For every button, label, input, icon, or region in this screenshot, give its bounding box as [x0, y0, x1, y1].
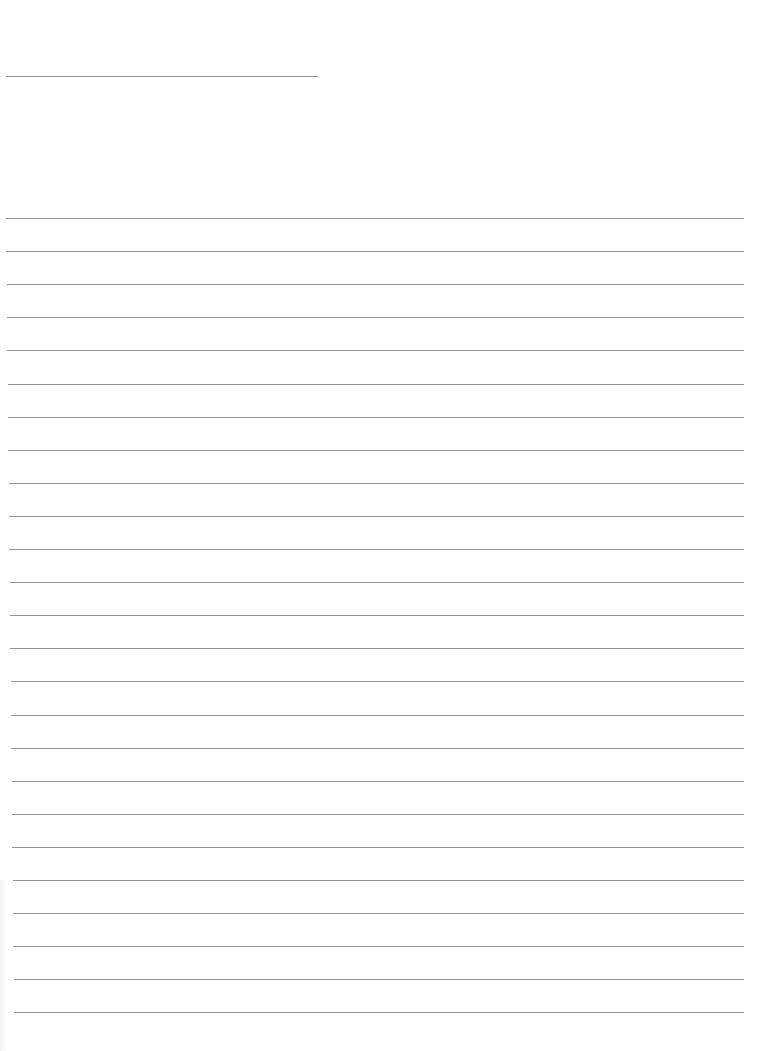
ruled-line — [13, 946, 744, 947]
ruled-line — [11, 748, 744, 749]
ruled-line — [6, 251, 744, 252]
ruled-line — [7, 317, 744, 318]
ruled-line — [12, 781, 744, 782]
ruled-line — [12, 814, 744, 815]
ruled-line — [8, 450, 744, 451]
ruled-line — [8, 384, 744, 385]
ruled-line — [10, 582, 744, 583]
ruled-line — [8, 417, 744, 418]
ruled-line — [7, 284, 744, 285]
lined-paper-page — [0, 0, 772, 1051]
ruled-line — [13, 913, 744, 914]
ruled-line — [14, 979, 744, 980]
ruled-line — [11, 715, 744, 716]
ruled-line — [9, 549, 744, 550]
ruled-line — [13, 880, 744, 881]
ruled-line — [10, 648, 744, 649]
ruled-line — [7, 350, 744, 351]
ruled-line — [9, 516, 744, 517]
ruled-line — [12, 847, 744, 848]
ruled-line — [10, 615, 744, 616]
ruled-line — [6, 218, 744, 219]
ruled-line — [14, 1012, 744, 1013]
ruled-line — [11, 681, 744, 682]
ruled-line — [9, 483, 744, 484]
ruled-lines-area — [0, 0, 772, 1051]
